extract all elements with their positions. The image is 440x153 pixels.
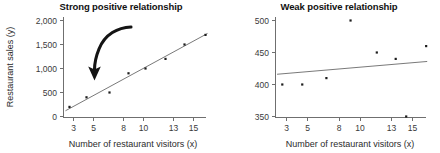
y-tick-label: 1,500 xyxy=(36,40,58,50)
x-tick-label: 10 xyxy=(139,123,149,133)
y-tick-label: 1,000 xyxy=(36,64,58,74)
x-axis-title-left: Number of restaurant visitors (x) xyxy=(69,139,198,149)
data-point xyxy=(376,51,378,53)
x-tick-label: 3 xyxy=(71,123,76,133)
x-tick-label: 10 xyxy=(355,123,365,133)
y-tick-marks-left xyxy=(60,21,64,117)
x-tick-labels-right: 3 5 8 10 13 15 xyxy=(284,123,417,133)
scatter-plot-weak: 500 450 400 350 3 5 8 10 13 15 xyxy=(220,0,440,153)
figure-scatterplot-pair: Strong positive relationship 2,000 1,500… xyxy=(0,0,440,153)
x-tick-label: 13 xyxy=(169,123,179,133)
x-tick-label: 8 xyxy=(121,123,126,133)
data-point xyxy=(85,96,87,98)
x-tick-label: 13 xyxy=(387,123,397,133)
scatter-plot-strong: 2,000 1,500 1,000 500 0 3 5 8 10 xyxy=(0,0,220,153)
data-point xyxy=(164,58,166,60)
data-point xyxy=(425,45,427,47)
data-point xyxy=(144,67,146,69)
trend-line-weak xyxy=(277,61,427,74)
x-tick-labels-left: 3 5 8 10 13 15 xyxy=(71,123,198,133)
x-tick-label: 15 xyxy=(189,123,199,133)
axis-frame-left xyxy=(64,17,207,118)
data-point xyxy=(325,77,327,79)
y-tick-label: 500 xyxy=(43,88,57,98)
y-tick-label: 400 xyxy=(255,80,269,90)
x-tick-label: 15 xyxy=(408,123,418,133)
data-point xyxy=(349,19,351,21)
y-tick-label: 500 xyxy=(255,16,269,26)
data-point xyxy=(68,106,70,108)
x-tick-label: 5 xyxy=(305,123,310,133)
y-tick-labels-right: 500 450 400 350 xyxy=(255,16,269,122)
x-tick-label: 5 xyxy=(91,123,96,133)
data-point xyxy=(301,83,303,85)
data-point xyxy=(108,91,110,93)
data-point xyxy=(281,83,283,85)
y-tick-labels-left: 2,000 1,500 1,000 500 0 xyxy=(36,16,58,122)
data-point xyxy=(204,34,206,36)
x-axis-title-right: Number of restaurant visitors (x) xyxy=(286,139,415,149)
y-tick-label: 350 xyxy=(255,112,269,122)
data-point xyxy=(395,58,397,60)
y-axis-title-left: Restaurant sales (y) xyxy=(5,27,15,108)
axis-frame-right xyxy=(276,17,427,118)
x-tick-label: 3 xyxy=(284,123,289,133)
trend-line-strong xyxy=(66,33,208,110)
data-points-weak xyxy=(281,19,427,117)
x-tick-marks-left xyxy=(74,118,194,122)
data-point xyxy=(183,43,185,45)
y-tick-label: 0 xyxy=(52,112,57,122)
y-tick-label: 450 xyxy=(255,48,269,58)
data-point xyxy=(405,115,407,117)
y-tick-marks-right xyxy=(272,21,276,117)
annotation-curved-arrow-icon xyxy=(88,27,131,81)
chart-panel-weak: Weak positive relationship 500 450 400 3… xyxy=(220,0,440,153)
y-tick-label: 2,000 xyxy=(36,16,58,26)
chart-panel-strong: Strong positive relationship 2,000 1,500… xyxy=(0,0,220,153)
data-point xyxy=(127,72,129,74)
x-tick-label: 8 xyxy=(337,123,342,133)
x-tick-marks-right xyxy=(287,118,413,122)
